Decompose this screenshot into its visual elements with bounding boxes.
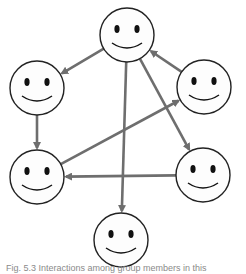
- eye-icon: [128, 230, 133, 238]
- arrow-right-lower-to-left-lower: [66, 175, 176, 176]
- nodes: [10, 8, 231, 267]
- smiley-node-left-upper: [10, 61, 64, 115]
- eye-icon: [44, 78, 49, 86]
- arrow-top-to-bottom: [122, 62, 126, 211]
- smiley-node-right-lower: [176, 148, 230, 202]
- smiley-node-right-upper: [177, 60, 231, 114]
- face-outline: [10, 150, 64, 204]
- arrow-top-to-left-upper: [62, 49, 104, 74]
- face-outline: [10, 61, 64, 115]
- eye-icon: [190, 165, 195, 173]
- eye-icon: [108, 230, 113, 238]
- face-outline: [177, 60, 231, 114]
- face-outline: [94, 213, 148, 267]
- eye-icon: [210, 165, 215, 173]
- eye-icon: [134, 25, 139, 33]
- arrow-right-upper-to-top: [151, 51, 182, 72]
- eye-icon: [114, 25, 119, 33]
- smiley-node-left-lower: [10, 150, 64, 204]
- smiley-node-bottom: [94, 213, 148, 267]
- eye-icon: [24, 78, 29, 86]
- face-outline: [176, 148, 230, 202]
- eye-icon: [24, 167, 29, 175]
- smiley-node-top: [100, 8, 154, 62]
- arrow-left-lower-to-right-upper: [61, 101, 179, 164]
- face-outline: [100, 8, 154, 62]
- eye-icon: [44, 167, 49, 175]
- eye-icon: [211, 77, 216, 85]
- eye-icon: [191, 77, 196, 85]
- figure-caption: Fig. 5.3 Interactions among group member…: [6, 262, 246, 274]
